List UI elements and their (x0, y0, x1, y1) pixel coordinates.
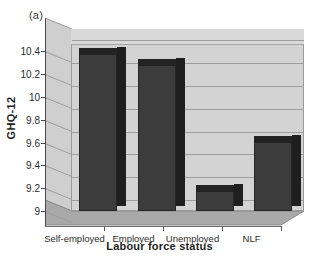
y-axis-tick-label: 10.4 (21, 46, 40, 57)
back-wall-top-band (71, 29, 304, 45)
bar (254, 136, 292, 211)
y-axis-tick (41, 143, 46, 144)
bar (196, 185, 234, 211)
bar-front-face (138, 59, 176, 211)
y-axis-tick-label: 10 (29, 92, 40, 103)
bar-top-face (196, 185, 234, 192)
y-axis-tick (41, 211, 46, 212)
bar-front-face (79, 48, 117, 211)
figure-panel-a: (a) GHQ-12 Labour force status 99.29.49.… (0, 0, 319, 262)
y-axis-tick-label: 9.4 (26, 160, 40, 171)
x-axis-tick-label: NLF (243, 233, 261, 244)
x-axis-tick-label: Employed (112, 233, 154, 244)
bar-top-face (79, 48, 117, 55)
y-axis-tick (41, 188, 46, 189)
x-axis-tick-label: Unemployed (166, 233, 219, 244)
y-axis-tick (41, 165, 46, 166)
bar (138, 59, 176, 211)
y-axis-tick-label: 9.6 (26, 137, 40, 148)
y-axis-tick-label: 9.8 (26, 114, 40, 125)
panel-label: (a) (29, 9, 43, 21)
y-axis-tick-label: 10.2 (21, 69, 40, 80)
x-axis-tick-label: Self-employed (44, 233, 105, 244)
y-axis-tick-label: 9.2 (26, 183, 40, 194)
y-axis-line (45, 18, 46, 226)
bar-top-face (138, 59, 176, 66)
bar-side-face (234, 184, 243, 206)
bar-front-face (254, 136, 292, 211)
y-axis-tick-label: 9 (34, 206, 40, 217)
bar-side-face (176, 58, 185, 206)
y-axis-title: GHQ-12 (5, 88, 17, 148)
bar-side-face (292, 135, 301, 206)
x-axis-tick (163, 226, 164, 231)
x-axis-tick (222, 226, 223, 231)
y-axis-tick (41, 97, 46, 98)
plot-area: 99.29.49.69.81010.210.4 Self-employedEmp… (45, 18, 307, 226)
y-axis-tick (41, 74, 46, 75)
x-axis-tick (281, 226, 282, 231)
y-axis-tick (41, 120, 46, 121)
y-axis-tick (41, 51, 46, 52)
gridline (72, 40, 304, 41)
bar-top-face (254, 136, 292, 143)
x-axis-tick (104, 226, 105, 231)
bar-side-face (117, 47, 126, 206)
bar (79, 48, 117, 211)
